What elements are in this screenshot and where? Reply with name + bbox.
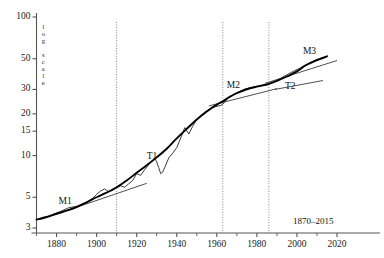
y-tick-label: 100 (0, 12, 31, 22)
annotation-label-t1: T1 (147, 152, 158, 162)
x-tick-label: 1900 (75, 240, 119, 250)
y-tick-label: 15 (0, 126, 31, 136)
chart-figure: log scale 100503020151053 18801900192019… (0, 0, 384, 258)
vertical-marker-lines (117, 22, 269, 233)
fitted-curve-path (37, 56, 327, 219)
regime-line-m2 (265, 61, 337, 84)
annotation-label-m2: M2 (227, 81, 240, 91)
x-tick-label: 2000 (275, 240, 319, 250)
y-tick-label: 50 (0, 54, 31, 64)
regime-line-t2 (275, 81, 323, 90)
observed-data-line (37, 56, 327, 219)
x-tick-label: 1940 (155, 240, 199, 250)
x-tick-label: 1960 (195, 240, 239, 250)
annotation-label-t2: T2 (285, 82, 296, 92)
x-tick-label: 2020 (315, 240, 359, 250)
x-tick-label: 1920 (115, 240, 159, 250)
date-range-note: 1870–2015 (293, 217, 334, 226)
x-tick-label: 1880 (35, 240, 79, 250)
y-tick-label: 30 (0, 84, 31, 94)
annotation-label-m3: M3 (303, 47, 316, 57)
annotation-label-m1: M1 (59, 197, 72, 207)
fitted-trend-curve (37, 56, 327, 219)
y-axis-title: log scale (40, 23, 48, 86)
y-tick-label: 10 (0, 151, 31, 161)
x-tick-label: 1980 (235, 240, 279, 250)
observed-data-path (37, 56, 327, 219)
y-tick-label: 3 (0, 223, 31, 233)
y-tick-label: 5 (0, 192, 31, 202)
y-tick-label: 20 (0, 109, 31, 119)
